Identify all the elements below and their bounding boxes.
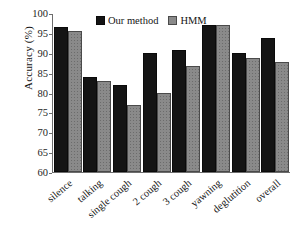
y-tick-label: 80: [38, 88, 49, 99]
bar-hmm[interactable]: [68, 31, 82, 172]
bar-our-method[interactable]: [54, 27, 68, 172]
bar-hmm[interactable]: [246, 58, 260, 172]
bar-our-method[interactable]: [232, 53, 246, 172]
y-tick-label: 60: [38, 168, 49, 179]
bar-our-method[interactable]: [261, 38, 275, 172]
y-tick-label: 95: [38, 29, 49, 40]
y-tick-mark: [49, 173, 52, 174]
y-tick-label: 85: [38, 68, 49, 79]
bar-hmm[interactable]: [216, 25, 230, 172]
bar-group: [231, 14, 261, 172]
bar-hmm[interactable]: [127, 105, 141, 172]
bar-hmm[interactable]: [186, 66, 200, 172]
y-tick-mark: [49, 153, 52, 154]
bar-hmm[interactable]: [275, 62, 289, 172]
bar-hmm[interactable]: [97, 81, 111, 172]
bar-our-method[interactable]: [202, 25, 216, 172]
bar-our-method[interactable]: [172, 50, 186, 172]
bar-group: [142, 14, 172, 172]
plot-area: 1009590858075706560: [52, 14, 290, 173]
y-tick-mark: [49, 34, 52, 35]
bar-chart-figure: Accuracy (%) Our method HMM 100959085807…: [0, 0, 299, 240]
y-tick-label: 70: [38, 128, 49, 139]
x-tick-cell: overall: [261, 174, 291, 238]
y-tick-mark: [49, 94, 52, 95]
bar-group: [112, 14, 142, 172]
x-axis-line: [52, 172, 290, 173]
x-tick-label: silence: [46, 178, 75, 205]
y-tick-label: 100: [32, 9, 48, 20]
bar-group: [53, 14, 83, 172]
bar-group: [83, 14, 113, 172]
y-tick-mark: [49, 54, 52, 55]
y-tick-label: 75: [38, 108, 49, 119]
bar-our-method[interactable]: [83, 77, 97, 172]
bar-group: [260, 14, 290, 172]
y-tick-mark: [49, 113, 52, 114]
x-tick-cell: silence: [53, 174, 83, 238]
bar-our-method[interactable]: [143, 53, 157, 172]
y-tick-label: 90: [38, 49, 49, 60]
y-tick-label: 65: [38, 148, 49, 159]
bar-group: [201, 14, 231, 172]
x-axis-tick-labels: silencetalkingsingle cough2 cough3 cough…: [53, 174, 291, 238]
x-tick-cell: deglutition: [232, 174, 262, 238]
y-tick-mark: [49, 133, 52, 134]
bar-groups: [53, 14, 290, 172]
y-tick-mark: [49, 74, 52, 75]
y-tick-mark: [49, 14, 52, 15]
bar-hmm[interactable]: [157, 93, 171, 172]
bar-group: [172, 14, 202, 172]
bar-our-method[interactable]: [113, 85, 127, 172]
